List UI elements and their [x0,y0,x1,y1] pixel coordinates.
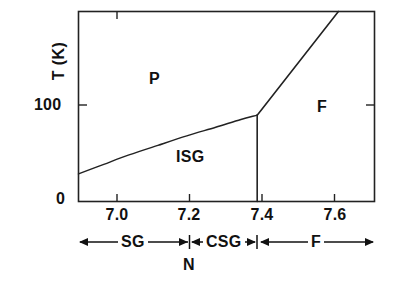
phase-label-p: P [149,70,160,88]
arrow-head-right-f [365,238,374,246]
plot-frame [79,12,375,202]
bracket-label-n: N [183,256,195,274]
arrow-head-left-csg [191,238,200,246]
phase-label-isg: ISG [176,148,204,166]
bracket-label-sg: SG [118,233,148,251]
arrow-head-right-sg [179,238,188,246]
y-tick-label-100: 100 [34,96,61,114]
arrow-head-right-csg [247,238,256,246]
phase-diagram-figure: T (K) 0 100 7.0 7.2 7.4 7.6 P ISG F SG C… [0,0,395,287]
x-tick-label-7-2: 7.2 [159,206,219,224]
arrow-head-left-f [260,238,269,246]
y-axis-label: T (K) [50,16,68,106]
x-tick-label-7-0: 7.0 [87,206,147,224]
x-axis-ticks [117,194,335,202]
phase-label-f: F [317,98,327,116]
bracket-label-f: F [308,233,324,251]
x-tick-label-7-4: 7.4 [232,206,292,224]
x-tick-label-7-6: 7.6 [305,206,365,224]
bracket-label-csg: CSG [203,233,245,251]
arrow-head-left-sg [79,238,88,246]
y-tick-label-0: 0 [56,190,65,208]
boundary-curve-p-isg [79,115,258,174]
